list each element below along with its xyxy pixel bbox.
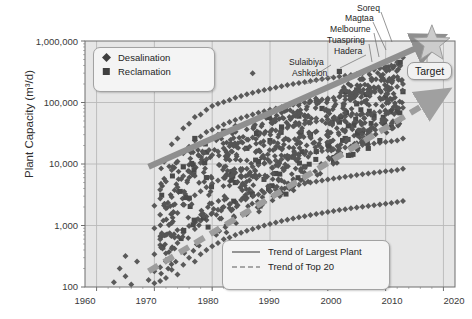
y-tick-label: 100,000 — [14, 97, 78, 108]
annotation-ashkelon: Ashkelon — [292, 68, 327, 78]
y-tick-label: 1,000 — [14, 220, 78, 231]
annotation-melbourne: Melbourne — [330, 24, 371, 34]
y-tick-label: 1,000,000 — [14, 36, 78, 47]
x-tick-label: 1960 — [63, 295, 107, 306]
x-tick-label: 2010 — [370, 295, 414, 306]
x-tick-label: 1990 — [247, 295, 291, 306]
x-tick-label: 2020 — [432, 295, 472, 306]
target-callout-label: Target — [415, 65, 444, 77]
legend-label-reclamation: Reclamation — [118, 66, 171, 77]
x-tick-label: 1980 — [186, 295, 230, 306]
annotation-magtaa: Magtaa — [345, 13, 374, 23]
legend-item-trend-largest: Trend of Largest Plant — [231, 246, 381, 257]
solid-line-icon — [231, 249, 261, 255]
legend-item-reclamation: Reclamation — [100, 66, 208, 77]
legend-label-trend-top20: Trend of Top 20 — [268, 261, 334, 272]
legend-item-desalination: Desalination — [100, 52, 208, 63]
y-tick-label: 10,000 — [14, 158, 78, 169]
annotation-soreq: Soreq — [357, 3, 380, 13]
target-callout: Target — [407, 62, 452, 80]
annotation-hadera: Hadera — [334, 46, 362, 56]
square-marker-icon — [100, 66, 113, 77]
dashed-line-icon — [231, 264, 261, 270]
annotation-sulaibiya: Sulaibiya — [289, 57, 324, 67]
x-tick-label: 2000 — [309, 295, 353, 306]
x-tick-label: 1970 — [124, 295, 168, 306]
legend-label-desalination: Desalination — [118, 52, 170, 63]
series-legend: Desalination Reclamation — [93, 47, 215, 92]
y-tick-label: 100 — [14, 281, 78, 292]
legend-label-trend-largest: Trend of Largest Plant — [268, 246, 362, 257]
legend-item-trend-top20: Trend of Top 20 — [231, 261, 381, 272]
trend-legend: Trend of Largest Plant Trend of Top 20 — [222, 240, 390, 290]
diamond-marker-icon — [100, 52, 113, 63]
annotation-tuaspring: Tuaspring — [327, 35, 365, 45]
